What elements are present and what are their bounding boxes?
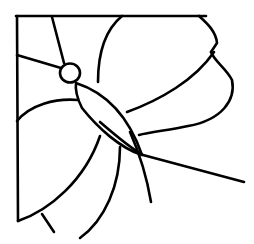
- butterfly-line-art: [0, 0, 254, 244]
- left-wing-upper-arc: [17, 100, 78, 121]
- left-wing-lower-arc: [18, 136, 100, 221]
- butterfly-body: [76, 83, 142, 155]
- butterfly-head: [60, 64, 80, 83]
- antenna-top: [52, 17, 64, 63]
- lower-right-wing-outer-edge: [139, 52, 233, 135]
- antenna-left: [17, 55, 61, 68]
- leg-tail: [130, 132, 151, 202]
- upper-wing-outer-edge: [199, 16, 217, 52]
- left-wing-outer-arc: [80, 147, 120, 238]
- upper-right-wing-inner: [98, 16, 122, 82]
- long-diagonal-line: [100, 122, 244, 182]
- upper-right-wing-lower: [127, 52, 214, 112]
- left-wing-tail-notch: [42, 214, 54, 232]
